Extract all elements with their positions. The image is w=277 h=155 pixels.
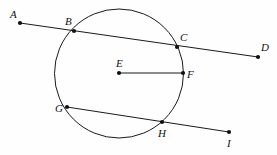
secant-line-GI	[67, 107, 229, 132]
point-marker-B	[72, 29, 76, 33]
point-label-e: E	[116, 58, 123, 69]
point-marker-I	[227, 130, 231, 134]
geometry-canvas	[0, 0, 277, 155]
point-marker-E	[117, 71, 121, 75]
point-label-d: D	[261, 42, 269, 53]
point-label-f: F	[187, 69, 194, 80]
point-marker-D	[256, 55, 260, 59]
point-label-b: B	[65, 16, 72, 27]
point-marker-F	[181, 71, 185, 75]
point-label-i: I	[227, 138, 231, 149]
point-marker-C	[175, 45, 179, 49]
point-label-h: H	[158, 128, 166, 139]
point-label-a: A	[10, 9, 17, 20]
point-label-c: C	[180, 32, 187, 43]
geometry-figure: A B C D E F G H I	[0, 0, 277, 155]
point-label-g: G	[55, 103, 63, 114]
point-marker-H	[160, 120, 164, 124]
point-marker-G	[65, 105, 69, 109]
secant-line-AD	[20, 23, 258, 57]
point-marker-A	[18, 21, 22, 25]
